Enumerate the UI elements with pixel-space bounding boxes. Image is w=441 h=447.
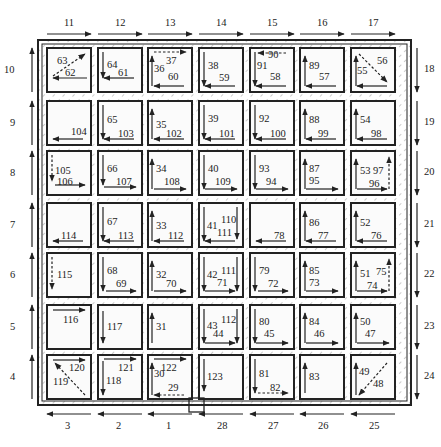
cell-path-label: 74 [367, 280, 378, 291]
cell-path-label: 31 [156, 321, 167, 332]
bottom-path-label: 27 [268, 420, 279, 431]
bottom-path-label: 1 [166, 420, 171, 431]
cell-path-label: 65 [107, 114, 118, 125]
cell-path-label: 94 [266, 176, 277, 187]
cell-path-label: 56 [377, 55, 388, 66]
cell-path-label: 50 [360, 316, 371, 327]
cell-path-label: 79 [259, 265, 270, 276]
cell-path-label: 114 [61, 230, 77, 241]
cell-path-label: 104 [71, 126, 88, 137]
cell-path-label: 36 [154, 63, 165, 74]
top-path-label: 13 [165, 17, 176, 28]
top-path-label: 16 [317, 17, 328, 28]
cell-path-label: 117 [107, 321, 122, 332]
top-path-label: 17 [368, 17, 379, 28]
top-path-label: 15 [267, 17, 278, 28]
cell-path-label: 55 [357, 65, 368, 76]
right-path-label: 19 [424, 116, 435, 127]
cell-path-label: 109 [215, 176, 231, 187]
cell-path-label: 76 [371, 230, 382, 241]
cell-path-label: 64 [107, 59, 118, 70]
cell-path-label: 120 [69, 362, 85, 373]
bottom-path-label: 3 [65, 420, 70, 431]
cell-path-label: 100 [270, 128, 286, 139]
cell-path-label: 32 [156, 269, 167, 280]
cell-path-label: 58 [270, 71, 281, 82]
cell-path-label: 44 [213, 328, 224, 339]
cell-path-label: 73 [309, 277, 320, 288]
cell-path-label: 45 [264, 328, 275, 339]
cell-path-label: 111 [221, 265, 236, 276]
bottom-path-label: 28 [217, 420, 228, 431]
left-path-label: 8 [10, 167, 15, 178]
cell-path-label: 71 [217, 277, 228, 288]
grid-cell [300, 355, 344, 399]
cell-path-label: 103 [118, 128, 134, 139]
bottom-path-label: 26 [318, 420, 329, 431]
top-path-label: 12 [115, 17, 126, 28]
grid-cell [98, 151, 142, 195]
right-path-label: 23 [424, 320, 435, 331]
cell-path-label: 52 [360, 217, 371, 228]
left-path-label: 5 [10, 321, 15, 332]
cell-path-label: 49 [359, 366, 370, 377]
right-path-label: 22 [424, 268, 435, 279]
cell-path-label: 97 [373, 165, 384, 176]
cell-path-label: 85 [309, 265, 320, 276]
cell-path-label: 35 [156, 119, 167, 130]
bottom-path-label: 25 [369, 420, 380, 431]
path-grid-diagram: 1112131415161718192021222324321282726251… [0, 0, 441, 447]
right-path-label: 20 [424, 166, 435, 177]
cell-path-label: 101 [219, 128, 235, 139]
cell-path-label: 42 [207, 269, 218, 280]
cell-path-label: 107 [116, 176, 132, 187]
cell-path-label: 47 [365, 328, 376, 339]
cell-path-label: 80 [259, 316, 270, 327]
right-path-label: 21 [424, 218, 435, 229]
cell-path-label: 105 [55, 165, 71, 176]
bottom-path-label: 2 [116, 420, 121, 431]
cell-path-label: 95 [309, 175, 320, 186]
top-path-label: 11 [64, 17, 74, 28]
cell-path-label: 118 [106, 375, 121, 386]
cell-path-label: 88 [309, 114, 320, 125]
cell-path-label: 93 [259, 163, 270, 174]
grid-cell [47, 305, 91, 349]
cell-path-label: 84 [309, 316, 320, 327]
left-path-label: 7 [10, 219, 15, 230]
cell-path-label: 60 [168, 71, 179, 82]
grid-cell [351, 355, 395, 399]
cell-path-label: 123 [207, 371, 223, 382]
cell-path-label: 106 [57, 176, 73, 187]
cell-path-label: 91 [257, 60, 268, 71]
cell-path-label: 82 [270, 382, 281, 393]
cell-path-label: 121 [118, 362, 134, 373]
cell-path-label: 113 [118, 230, 133, 241]
cell-path-label: 46 [314, 328, 325, 339]
top-path-label: 14 [216, 17, 227, 28]
cell-path-label: 115 [57, 269, 72, 280]
cell-path-label: 77 [318, 230, 329, 241]
cell-path-label: 89 [309, 60, 320, 71]
cell-path-label: 81 [259, 368, 270, 379]
cell-path-label: 53 [360, 165, 371, 176]
cell-path-label: 62 [65, 67, 76, 78]
cell-path-label: 48 [373, 378, 384, 389]
grid-cell [148, 305, 192, 349]
cell-path-label: 38 [208, 60, 219, 71]
cell-path-label: 96 [369, 178, 380, 189]
cell-path-label: 102 [166, 128, 182, 139]
left-path-label: 9 [10, 117, 15, 128]
cell-path-label: 112 [221, 314, 236, 325]
cell-path-label: 110 [221, 214, 236, 225]
cell-path-label: 39 [208, 113, 219, 124]
cell-path-label: 122 [161, 362, 177, 373]
cell-path-label: 37 [166, 55, 177, 66]
right-path-label: 18 [424, 63, 435, 74]
cell-path-label: 68 [107, 265, 118, 276]
cell-path-label: 41 [207, 220, 218, 231]
left-path-label: 6 [10, 269, 15, 280]
cell-path-label: 33 [156, 220, 167, 231]
cell-path-label: 98 [371, 128, 382, 139]
cell-path-label: 67 [107, 216, 118, 227]
